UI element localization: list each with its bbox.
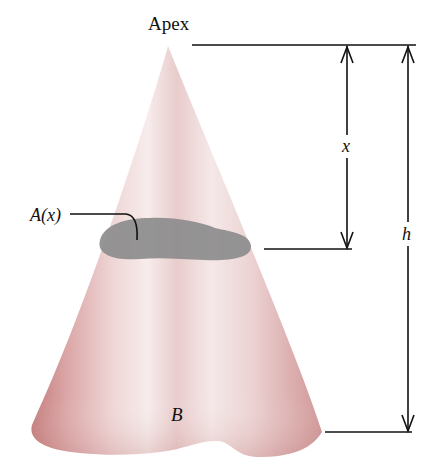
cone-diagram: Apex A(x) x h B [0,0,431,467]
x-distance-label: x [341,136,350,156]
cross-section-label: A(x) [29,205,61,226]
height-label: h [402,224,411,244]
base-label: B [171,404,183,425]
apex-label: Apex [148,13,190,34]
